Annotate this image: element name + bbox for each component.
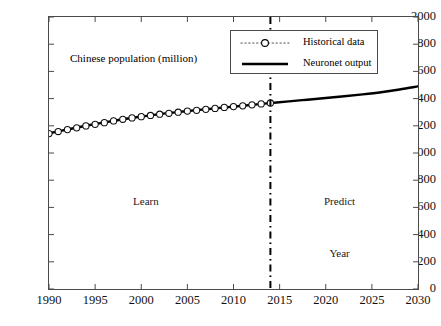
legend-label-historical-data: Historical data bbox=[303, 36, 365, 47]
annotation-year: Year bbox=[329, 247, 349, 259]
solid-line-icon bbox=[239, 53, 295, 75]
x-axis-tick-2005: 2005 bbox=[164, 294, 210, 306]
x-axis-tick-2000: 2000 bbox=[118, 294, 164, 306]
x-axis-tick-1990: 1990 bbox=[26, 294, 72, 306]
x-axis-tick-1995: 1995 bbox=[72, 294, 118, 306]
dotted-circle-marker-icon bbox=[239, 32, 295, 54]
x-axis-tick-2010: 2010 bbox=[211, 294, 257, 306]
legend-item-neuronet-output[interactable]: Neuronet output bbox=[231, 53, 379, 75]
annotation-learn: Learn bbox=[133, 195, 159, 207]
x-axis-tick-2020: 2020 bbox=[303, 294, 349, 306]
legend: Historical data Neuronet output bbox=[230, 30, 378, 74]
legend-label-neuronet-output: Neuronet output bbox=[303, 57, 372, 68]
x-axis-tick-2030: 2030 bbox=[395, 294, 441, 306]
x-axis-tick-2015: 2015 bbox=[257, 294, 303, 306]
axis-note-label: Chinese population (million) bbox=[70, 52, 197, 64]
annotation-predict: Predict bbox=[324, 195, 355, 207]
legend-item-historical-data[interactable]: Historical data bbox=[231, 32, 379, 54]
x-axis-tick-2025: 2025 bbox=[349, 294, 395, 306]
